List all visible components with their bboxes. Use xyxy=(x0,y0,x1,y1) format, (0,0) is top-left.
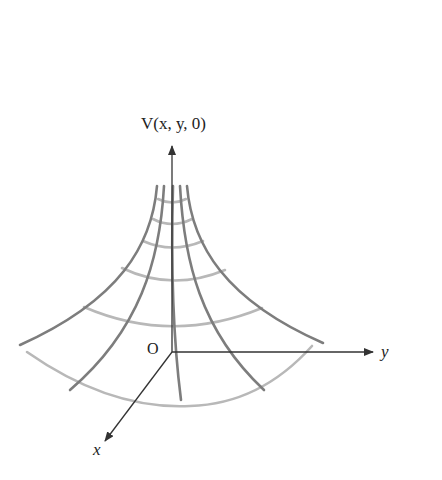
x-axis-label: x xyxy=(93,440,101,460)
radial-curve-inner-left xyxy=(70,186,164,390)
origin-label: O xyxy=(147,340,159,358)
radial-curve-outer-right xyxy=(187,186,323,343)
surface-diagram xyxy=(0,0,442,480)
vertical-axis-label: V(x, y, 0) xyxy=(141,114,206,134)
level-arcs xyxy=(27,199,312,406)
y-axis-label: y xyxy=(381,342,389,362)
radial-curve-outer-left xyxy=(20,186,157,345)
radial-curve-center xyxy=(172,186,181,400)
